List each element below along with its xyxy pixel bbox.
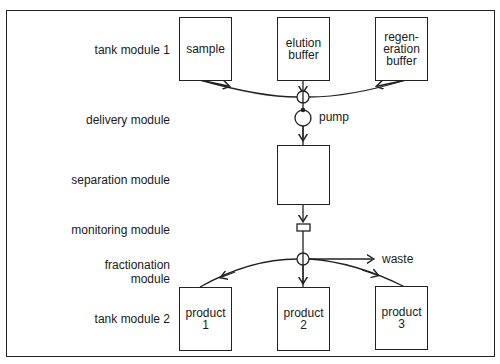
label-tank-module-2: tank module 2 <box>95 312 170 326</box>
tank-sample-label: sample <box>186 43 225 55</box>
label-tank-module-1: tank module 1 <box>95 43 170 57</box>
waste-label: waste <box>382 252 413 266</box>
label-delivery-module: delivery module <box>86 113 170 127</box>
tank-product-3: product 3 <box>375 286 428 350</box>
label-separation-module: separation module <box>71 173 170 187</box>
tank-sample: sample <box>179 17 232 81</box>
tank-product-2-label: product 2 <box>283 307 323 331</box>
tank-product-3-label: product 3 <box>381 306 421 330</box>
tank-product-2: product 2 <box>277 287 330 351</box>
pump-label: pump <box>319 110 349 124</box>
tank-regeneration-label: regen- eration buffer <box>383 31 420 67</box>
tank-elution-label: elution buffer <box>286 37 321 61</box>
tank-elution-buffer: elution buffer <box>277 17 330 81</box>
pump-icon <box>295 110 311 126</box>
tank-product-1-label: product 1 <box>185 307 225 331</box>
label-fractionation-module: fractionation module <box>105 258 170 286</box>
tank-regeneration-buffer: regen- eration buffer <box>375 17 428 81</box>
monitoring-detector-icon <box>297 224 310 231</box>
separation-column <box>277 145 330 205</box>
tank-product-1: product 1 <box>179 287 232 351</box>
label-monitoring-module: monitoring module <box>71 223 170 237</box>
